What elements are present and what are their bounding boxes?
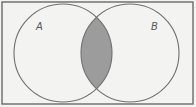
set-b-label: B	[151, 21, 158, 32]
set-a-label: A	[35, 21, 43, 32]
venn-diagram: A B	[0, 0, 196, 107]
venn-diagram-canvas: A B	[0, 0, 196, 107]
